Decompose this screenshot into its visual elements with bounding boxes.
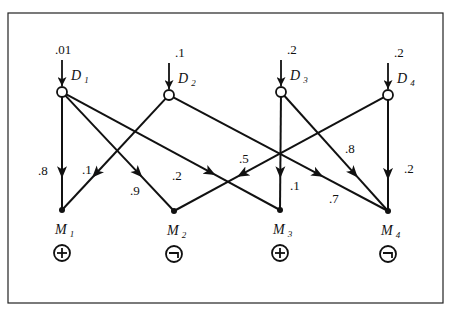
edge-d2-m1: .1: [62, 99, 166, 210]
edges-layer: .8.9.2.1.7.1.8.5.2: [38, 94, 414, 211]
absent-negation-icon: [166, 246, 182, 262]
disorder-label: D3: [289, 68, 308, 85]
manifestation-label: M3: [272, 222, 293, 239]
manifestation-node-m4: M4: [380, 208, 401, 262]
disorder-label: D2: [177, 71, 196, 88]
node-dot-icon: [171, 208, 177, 214]
node-dot-icon: [385, 208, 391, 214]
edge-weight-label: .9: [130, 183, 140, 198]
causal-network-diagram: .8.9.2.1.7.1.8.5.2 .01.1.2.2 D1D2D3D4 M1…: [0, 0, 452, 311]
manifestation-nodes-layer: M1M2M3M4: [54, 207, 401, 262]
node-circle-icon: [164, 90, 174, 100]
edge-weight-label: .2: [172, 168, 182, 183]
manifestation-label: M1: [54, 222, 74, 239]
prior-probability-label: .01: [55, 42, 71, 57]
edge-weight-label: .1: [82, 162, 92, 177]
edge-weight-label: .8: [345, 141, 355, 156]
node-circle-icon: [276, 87, 286, 97]
disorder-label: D1: [70, 68, 89, 85]
edge-d1-m1: .8: [38, 97, 62, 210]
present-plus-icon: [272, 245, 288, 261]
edge-weight-label: .1: [290, 178, 300, 193]
node-dot-icon: [277, 207, 283, 213]
manifestation-node-m2: M2: [166, 208, 187, 262]
edge-weight-label: .8: [38, 163, 48, 178]
manifestation-label: M2: [166, 223, 187, 240]
disorder-label: D4: [396, 71, 415, 88]
edge-d1-m2: .9: [65, 96, 174, 211]
disorder-nodes-layer: D1D2D3D4: [57, 68, 415, 100]
node-dot-icon: [59, 207, 65, 213]
prior-probability-label: .2: [287, 42, 297, 57]
manifestation-node-m1: M1: [54, 207, 74, 261]
edge-weight-label: .5: [239, 151, 249, 166]
prior-d1: .01: [55, 42, 71, 86]
manifestation-label: M4: [380, 223, 401, 240]
edge-weight-label: .2: [404, 161, 414, 176]
prior-probability-label: .1: [175, 45, 185, 60]
edge-weight-label: .7: [329, 191, 339, 206]
prior-arrows-layer: .01.1.2.2: [55, 42, 404, 89]
absent-negation-icon: [380, 246, 396, 262]
frame-border: [8, 13, 443, 303]
manifestation-node-m3: M3: [272, 207, 293, 261]
prior-probability-label: .2: [394, 45, 404, 60]
edge-d3-m3: .1: [280, 97, 300, 210]
edge-d4-m4: .2: [388, 100, 414, 211]
present-plus-icon: [54, 245, 70, 261]
node-circle-icon: [383, 90, 393, 100]
node-circle-icon: [57, 87, 67, 97]
